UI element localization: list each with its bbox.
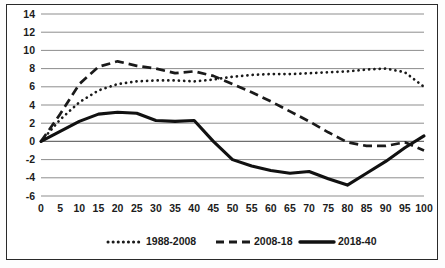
y-tick-label-0: 0 [29,135,35,147]
chart-legend: 1988-20082008-182018-40 [108,235,377,247]
x-tick-label-80: 80 [342,202,354,214]
y-tick-label--4: -4 [26,171,35,183]
x-tick-label-15: 15 [93,202,105,214]
gridlines [41,14,424,196]
x-tick-label-70: 70 [303,202,315,214]
line-chart-svg: 14121086420-2-4-6 0510152025303540455055… [0,0,445,268]
chart-canvas: 14121086420-2-4-6 0510152025303540455055… [0,0,445,268]
x-tick-label-20: 20 [112,202,124,214]
y-axis-tick-labels: 14121086420-2-4-6 [23,8,35,202]
legend-label-2008-18: 2008-18 [254,235,293,247]
legend-label-1988-2008: 1988-2008 [146,235,196,247]
x-tick-label-90: 90 [380,202,392,214]
x-tick-label-10: 10 [73,202,85,214]
x-tick-label-85: 85 [361,202,373,214]
x-tick-label-60: 60 [265,202,277,214]
y-tick-label--6: -6 [26,190,35,202]
y-tick-label-4: 4 [29,99,35,111]
y-tick-label--2: -2 [26,153,35,165]
x-axis-tick-labels: 0510152025303540455055606570758085909510… [38,202,433,214]
chart-page: 14121086420-2-4-6 0510152025303540455055… [0,0,445,268]
legend-label-2018-40: 2018-40 [338,235,377,247]
series-line-2008-18 [41,61,424,150]
x-tick-label-40: 40 [188,202,200,214]
x-tick-label-95: 95 [399,202,411,214]
y-tick-label-10: 10 [23,44,35,56]
x-tick-label-35: 35 [169,202,181,214]
x-tick-label-50: 50 [227,202,239,214]
x-tick-label-55: 55 [246,202,258,214]
x-tick-label-45: 45 [208,202,220,214]
y-tick-label-6: 6 [29,80,35,92]
x-tick-label-30: 30 [150,202,162,214]
y-tick-label-14: 14 [23,8,35,20]
y-tick-label-2: 2 [29,117,35,129]
x-tick-label-100: 100 [415,202,433,214]
y-tick-label-12: 12 [23,26,35,38]
x-tick-label-75: 75 [322,202,334,214]
y-tick-label-8: 8 [29,62,35,74]
x-tick-label-5: 5 [57,202,63,214]
x-tick-label-65: 65 [284,202,296,214]
x-tick-label-0: 0 [38,202,44,214]
x-tick-label-25: 25 [131,202,143,214]
